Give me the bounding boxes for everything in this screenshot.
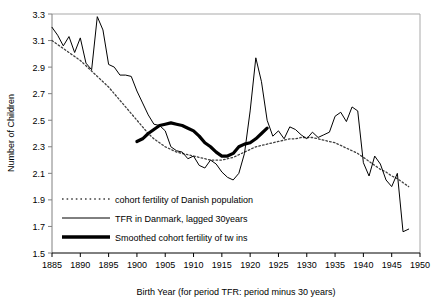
y-tick-label: 2.9 [32,63,45,73]
x-tick-label: 1920 [240,260,260,270]
y-axis-title: Number of Children [6,94,16,172]
fertility-line-chart: 1.51.71.92.12.32.52.72.93.13.3 188518901… [0,0,444,306]
chart-canvas: 1.51.71.92.12.32.52.72.93.13.3 188518901… [0,0,444,306]
y-tick-label: 2.1 [32,169,45,179]
x-axis-title: Birth Year (for period TFR: period minus… [137,287,336,297]
y-tick-label: 3.3 [32,10,45,20]
x-tick-label: 1935 [325,260,345,270]
x-tick-label: 1940 [353,260,373,270]
x-tick-label: 1910 [184,260,204,270]
y-tick-label: 2.5 [32,116,45,126]
x-tick-label: 1900 [127,260,147,270]
x-tick-label: 1885 [42,260,62,270]
x-tick-label: 1890 [70,260,90,270]
legend-label: Smoothed cohort fertility of tw ins [115,233,248,243]
y-tick-label: 3.1 [32,36,45,46]
x-tick-label: 1925 [268,260,288,270]
legend-label: TFR in Danmark, lagged 30years [115,214,248,224]
x-tick-label: 1945 [382,260,402,270]
x-tick-label: 1905 [155,260,175,270]
x-tick-label: 1915 [212,260,232,270]
y-tick-label: 1.5 [32,249,45,259]
x-tick-label: 1950 [410,260,430,270]
y-tick-label: 2.7 [32,89,45,99]
x-tick-label: 1930 [297,260,317,270]
legend-label: cohort fertility of Danish population [115,195,253,205]
y-tick-label: 2.3 [32,142,45,152]
x-tick-label: 1895 [99,260,119,270]
y-tick-label: 1.9 [32,195,45,205]
y-tick-label: 1.7 [32,222,45,232]
